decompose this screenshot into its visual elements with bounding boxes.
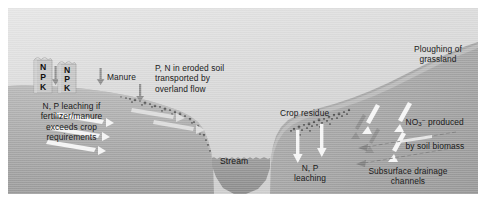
bag-1-letter-k: K (34, 83, 52, 92)
label-leaching-left: N, P leaching if fertilizer/manure excee… (14, 101, 129, 143)
label-eroded-soil: P, N in eroded soil transported by overl… (155, 63, 224, 94)
nitrate-formula-prefix: NO (406, 118, 419, 128)
label-crop-residue: Crop residue (280, 108, 329, 118)
figure-root: N P K N P K Manure N, P leaching if fert… (0, 0, 487, 207)
label-manure: Manure (107, 72, 136, 82)
label-leaching-right: N, P leaching (284, 163, 336, 184)
nitrate-produced-line2: by soil biomass (406, 141, 465, 151)
label-subsurface-drainage: Subsurface drainage channels (344, 166, 472, 187)
diagram-scene: N P K N P K Manure N, P leaching if fert… (8, 8, 478, 194)
bag-2-letter-k: K (58, 84, 76, 93)
label-nitrate-produced: NO3− produced by soil biomass (391, 106, 464, 161)
nitrate-produced-suffix: produced (426, 118, 464, 128)
label-ploughing: Ploughing of grassland (398, 44, 478, 65)
bag-1-letter-p: P (34, 73, 52, 82)
bag-1-letter-n: N (34, 63, 52, 72)
label-stream: Stream (220, 156, 248, 166)
